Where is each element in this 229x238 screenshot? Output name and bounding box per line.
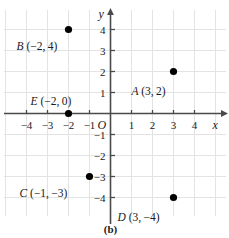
point-label-coords: (−1, −3)	[30, 187, 67, 199]
x-tick-label: 3	[171, 120, 177, 131]
point-label-d: D (3, −4)	[118, 212, 160, 224]
x-tick-label: 2	[150, 120, 156, 131]
data-point-c	[86, 173, 93, 180]
point-label-coords: (3, −4)	[129, 211, 160, 223]
x-tick-label: 4	[192, 120, 198, 131]
x-axis-arrowhead	[221, 110, 228, 117]
x-tick-label: 1	[129, 120, 135, 131]
x-tick-label: −2	[63, 120, 75, 131]
point-label-name: D	[118, 211, 129, 223]
y-tick-label: −3	[94, 171, 106, 182]
y-tick-label: 2	[100, 66, 106, 77]
point-label-coords: (−2, 4)	[26, 40, 57, 52]
x-tick-label: −4	[21, 120, 33, 131]
data-point-d	[170, 194, 177, 201]
y-tick-label: 3	[100, 45, 106, 56]
data-point-e	[65, 110, 72, 117]
origin-label: O	[98, 119, 107, 131]
point-label-name: B	[17, 40, 27, 52]
point-label-coords: (3, 2)	[141, 85, 165, 97]
y-axis-arrowhead	[107, 8, 114, 15]
point-label-b: B (−2, 4)	[17, 41, 58, 53]
coordinate-plane-figure: −4−3−2−112344321−1−2−3−4 O x y A (3, 2)B…	[0, 0, 229, 238]
y-axis-label: y	[99, 8, 104, 20]
point-label-coords: (−2, 0)	[40, 95, 71, 107]
point-label-name: E	[31, 95, 41, 107]
figure-caption: (b)	[104, 224, 117, 235]
point-label-a: A (3, 2)	[132, 86, 166, 98]
point-label-name: A	[132, 85, 142, 97]
y-tick-label: −4	[94, 192, 106, 203]
x-tick-label: −3	[42, 120, 54, 131]
y-tick-label: 4	[100, 24, 106, 35]
y-tick-label: 1	[100, 87, 106, 98]
point-label-c: C (−1, −3)	[20, 188, 68, 200]
data-point-b	[65, 26, 72, 33]
point-label-name: C	[20, 187, 31, 199]
point-label-e: E (−2, 0)	[31, 96, 72, 108]
data-point-a	[170, 68, 177, 75]
x-axis-label: x	[213, 119, 218, 131]
y-tick-label: −2	[94, 150, 106, 161]
